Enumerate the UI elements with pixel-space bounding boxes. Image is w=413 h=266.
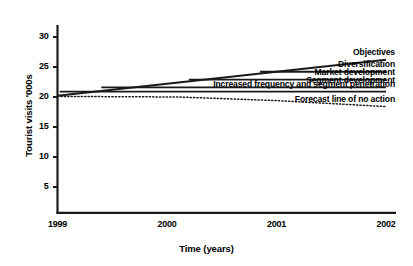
x-tick-label: 2001 (257, 219, 297, 229)
y-tick-label: 20 (27, 91, 49, 101)
y-tick-label: 25 (27, 61, 49, 71)
series-label: Forecast line of no action (295, 94, 395, 104)
y-tick-label: 15 (27, 121, 49, 131)
x-axis-title: Time (years) (0, 243, 413, 254)
y-tick-label: 5 (27, 181, 49, 191)
x-tick-label: 2002 (366, 219, 406, 229)
series-label: Increased frequency and segment penetrat… (213, 79, 395, 89)
chart-container: Tourist visits '000s Time (years) 510152… (0, 0, 413, 266)
x-tick-label: 2000 (147, 219, 187, 229)
y-tick-label: 10 (27, 151, 49, 161)
x-tick-label: 1999 (38, 219, 78, 229)
series-label: Objectives (353, 47, 395, 57)
axes-group (56, 25, 396, 214)
y-tick-label: 30 (27, 31, 49, 41)
